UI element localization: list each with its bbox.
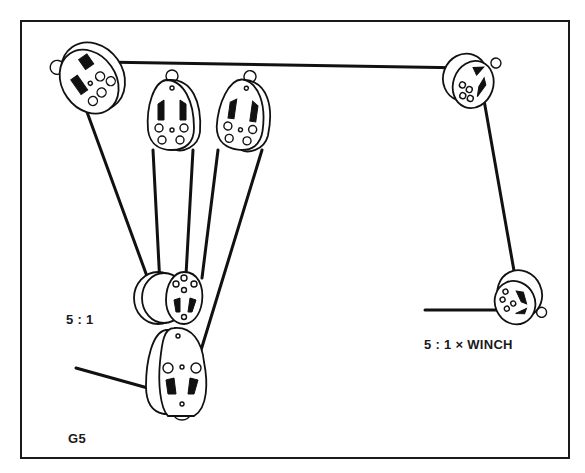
purchase-fall-3 xyxy=(186,150,193,275)
lower-moving-block xyxy=(134,272,202,324)
winch-ratio-label: 5 : 1 × WINCH xyxy=(424,337,513,352)
lower-becket-block xyxy=(146,328,206,420)
purchase-fall-5 xyxy=(198,150,262,360)
purchase-fall-4 xyxy=(202,150,218,278)
upper-fiddle-block-1 xyxy=(148,70,201,150)
hauling-tail-line xyxy=(76,368,155,390)
pulley-system-diagram xyxy=(0,0,585,473)
top-right-turning-block xyxy=(435,43,503,114)
bottom-right-turning-block xyxy=(484,263,553,334)
top-left-turning-block xyxy=(45,30,138,125)
figure-id-label: G5 xyxy=(68,431,86,446)
ratio-label: 5 : 1 xyxy=(66,312,94,327)
purchase-fall-2 xyxy=(153,150,160,285)
upper-fiddle-block-2 xyxy=(214,67,277,154)
purchase-fall-1 xyxy=(87,112,152,290)
top-horizontal-line xyxy=(100,62,470,68)
